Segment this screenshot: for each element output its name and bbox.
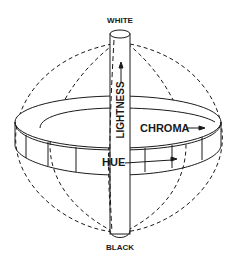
label-hue: HUE: [102, 156, 125, 168]
label-chroma: CHROMA: [140, 122, 190, 134]
color-solid-diagram: WHITE BLACK LIGHTNESS CHROMA HUE: [0, 0, 236, 270]
label-black: BLACK: [106, 243, 134, 252]
label-white: WHITE: [107, 16, 133, 25]
label-lightness: LIGHTNESS: [115, 81, 126, 139]
